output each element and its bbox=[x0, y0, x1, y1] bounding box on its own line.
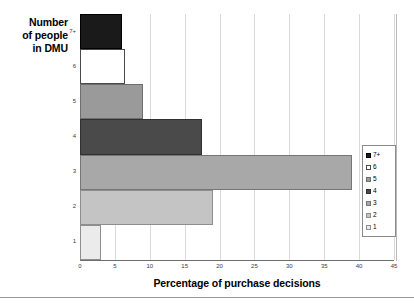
legend-swatch-icon bbox=[366, 177, 371, 182]
x-tick-label: 10 bbox=[140, 263, 160, 269]
legend-item-1[interactable]: 1 bbox=[366, 221, 393, 233]
figure-bottom-rule bbox=[0, 297, 414, 298]
x-tick-label: 20 bbox=[210, 263, 230, 269]
legend-swatch-icon bbox=[366, 225, 371, 230]
x-tick-label: 15 bbox=[175, 263, 195, 269]
legend-item-5[interactable]: 5 bbox=[366, 173, 393, 185]
x-tick-label: 5 bbox=[105, 263, 125, 269]
y-tick-label: 6 bbox=[62, 63, 76, 69]
legend-label: 6 bbox=[373, 164, 377, 171]
bar-5 bbox=[80, 84, 143, 119]
bar-7+ bbox=[80, 14, 122, 49]
legend-item-6[interactable]: 6 bbox=[366, 161, 393, 173]
y-axis-title-line-1: Number bbox=[2, 16, 68, 29]
bar-4 bbox=[80, 119, 202, 154]
x-tick-label: 40 bbox=[349, 263, 369, 269]
y-axis-title-line-3: in DMU bbox=[2, 42, 68, 55]
y-tick-label: 5 bbox=[62, 98, 76, 104]
y-tick-label: 4 bbox=[62, 133, 76, 139]
legend-item-3[interactable]: 3 bbox=[366, 197, 393, 209]
bar-1 bbox=[80, 225, 101, 260]
bar-3 bbox=[80, 155, 352, 190]
y-axis-title-line-2: of people bbox=[2, 29, 68, 42]
y-axis-title: Number of people in DMU bbox=[2, 16, 68, 55]
legend-swatch-icon bbox=[366, 153, 371, 158]
legend-swatch-icon bbox=[366, 213, 371, 218]
x-tick-label: 30 bbox=[279, 263, 299, 269]
legend-swatch-icon bbox=[366, 189, 371, 194]
legend-label: 5 bbox=[373, 176, 377, 183]
legend-item-7+[interactable]: 7+ bbox=[366, 149, 393, 161]
legend-swatch-icon bbox=[366, 165, 371, 170]
x-tick-label: 35 bbox=[314, 263, 334, 269]
bar-chart-figure: Number of people in DMU 7+654321 0510152… bbox=[0, 0, 414, 307]
x-axis-line bbox=[80, 260, 394, 261]
legend-label: 4 bbox=[373, 188, 377, 195]
x-tick-label: 25 bbox=[244, 263, 264, 269]
x-axis-title: Percentage of purchase decisions bbox=[80, 277, 394, 289]
legend-label: 3 bbox=[373, 200, 377, 207]
bar-6 bbox=[80, 49, 125, 84]
legend-label: 1 bbox=[373, 224, 377, 231]
bar-2 bbox=[80, 190, 213, 225]
y-tick-label: 2 bbox=[62, 203, 76, 209]
y-tick-label: 3 bbox=[62, 168, 76, 174]
legend-swatch-icon bbox=[366, 201, 371, 206]
y-tick-label: 7+ bbox=[62, 28, 76, 34]
legend: 7+654321 bbox=[362, 145, 396, 237]
legend-label: 2 bbox=[373, 212, 377, 219]
x-tick-label: 45 bbox=[384, 263, 404, 269]
legend-item-4[interactable]: 4 bbox=[366, 185, 393, 197]
y-tick-label: 1 bbox=[62, 238, 76, 244]
legend-label: 7+ bbox=[373, 152, 380, 159]
x-tick-label: 0 bbox=[70, 263, 90, 269]
legend-item-2[interactable]: 2 bbox=[366, 209, 393, 221]
